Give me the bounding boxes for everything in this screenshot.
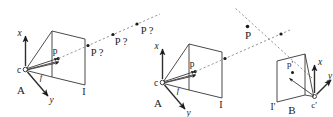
candidate-point-3-marker: [135, 22, 138, 25]
axis-x-label-left: x: [16, 28, 22, 38]
panel-caption-right-a: A: [154, 97, 162, 109]
focal-length-label-left: f: [40, 72, 44, 82]
ray-a-far-dot: [279, 32, 282, 35]
scene-point-P-label: P: [245, 29, 251, 41]
viewing-ray-dashed-a: [196, 30, 291, 72]
candidate-point-2-label: P ?: [115, 36, 128, 47]
image-point-label-left: p: [53, 46, 58, 56]
axis-x-label-b: x: [317, 57, 323, 67]
camera-center-label-right-a: c: [154, 78, 158, 88]
image-point-label-p-prime: p': [287, 59, 294, 69]
camera-center-label-left: c: [17, 65, 21, 75]
candidate-point-1-label: P ?: [91, 47, 104, 58]
axis-y-b: [317, 80, 332, 95]
image-plane-label-I-prime: I': [271, 102, 276, 112]
image-point-label-right-a: p: [190, 59, 195, 69]
candidate-point-1-marker: [86, 44, 89, 47]
viewing-ray-dashed-b: [234, 7, 312, 78]
axis-y-label-b: y: [327, 71, 333, 81]
candidate-point-3-label: P ?: [141, 25, 154, 36]
ray-a-sample-dot: [223, 57, 226, 60]
axis-y-label-right-a: y: [185, 108, 191, 117]
axis-x-label-right-a: x: [153, 41, 159, 51]
axis-y-label-left: y: [48, 95, 54, 105]
image-plane-label-right-a: I: [219, 99, 222, 110]
camera-center-label-c-prime: c': [311, 100, 317, 110]
image-plane-label-left: I: [82, 86, 85, 97]
scene-point-P-marker: [246, 25, 250, 29]
focal-length-label-right-a: f: [177, 85, 181, 95]
panel-caption-left: A: [17, 84, 25, 96]
figure-container: x y c f p I A P ? P ? P ?: [0, 0, 333, 117]
panel-caption-right-b: B: [288, 104, 295, 116]
panel-left: x y c f p I A P ? P ? P ?: [16, 14, 160, 105]
image-point-p-prime-marker: [291, 71, 294, 74]
epipolar-geometry-diagram: x y c f p I A P ? P ? P ?: [0, 0, 333, 117]
panel-right: x y c f p I A P p' I' c' x y B: [153, 7, 333, 117]
